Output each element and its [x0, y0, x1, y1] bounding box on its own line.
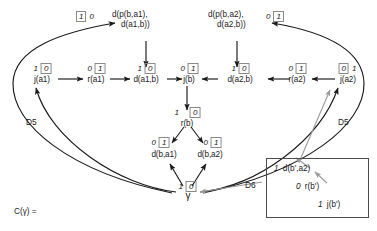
node-r-a1: r(a1) — [88, 75, 105, 84]
edge-loop-right-top — [272, 23, 364, 83]
inset-label: d(b',a2) — [283, 164, 311, 173]
bit-plain: 0 — [180, 65, 186, 73]
bit-boxed: 0 — [239, 63, 249, 74]
cost-formula-line1: C(γ) = — [14, 207, 109, 218]
bits-d-b-a2: 0 1 — [203, 137, 222, 148]
node-d-a2-b: d(a2,b) — [227, 75, 252, 84]
inset-row-j-bp: 1 j(b') — [318, 200, 340, 209]
bits-d-p-b-a1: 1 0 — [76, 11, 95, 22]
node-d-b-a1: d(b,a1) — [151, 150, 176, 159]
edge-loop-left-top — [13, 23, 115, 83]
inset-flag: 1 — [274, 164, 279, 173]
bit-boxed: 0 — [190, 107, 200, 118]
inset-flag: 0 — [296, 182, 301, 191]
node-r-a2: r(a2) — [289, 75, 306, 84]
node-d-a1-b: d(a1,b) — [133, 75, 158, 84]
node-d-p-b-a2-line1: d(p(b,a2), — [208, 10, 246, 20]
edge-label-d5-left: D5 — [26, 117, 37, 127]
bit-boxed: 1 — [76, 11, 86, 22]
bit-plain: 1 — [174, 109, 180, 117]
node-j-a2: j(a2) — [340, 75, 356, 84]
edge-rb-dba2 — [191, 127, 203, 143]
inset-flag: 1 — [318, 200, 323, 209]
inset-row-r-bp: 0 r(b') — [296, 182, 319, 191]
inset-label: r(b') — [305, 182, 319, 191]
node-j-a1: j(a1) — [34, 75, 50, 84]
inset-label: j(b') — [327, 200, 340, 209]
bit-boxed: 0 — [41, 63, 51, 74]
bit-boxed: 0 — [339, 63, 349, 74]
diagram-canvas: 1 0 d(p(b,a1), d(a1,b)) d(p(b,a2), d(a2,… — [0, 0, 377, 231]
bits-d-a2-b: 1 0 — [231, 63, 250, 74]
node-gamma: γ — [186, 190, 191, 201]
bit-plain: 1 — [33, 65, 39, 73]
edge-label-d5-right: D5 — [338, 117, 349, 127]
bit-boxed: 1 — [273, 11, 283, 22]
edge-label-d6: D6 — [245, 180, 256, 190]
node-d-p-b-a1-line2: d(a1,b)) — [112, 20, 150, 30]
edge-d6-to-ja2 — [300, 90, 330, 160]
node-d-p-b-a2: d(p(b,a2), d(a2,b)) — [208, 10, 246, 29]
bits-j-b: 0 1 — [180, 63, 199, 74]
bits-d-a1-b: 1 0 — [137, 63, 156, 74]
bit-boxed: 1 — [296, 63, 306, 74]
bits-d-p-b-a2: 0 1 — [265, 11, 284, 22]
edge-rb-dba1 — [172, 127, 184, 143]
bit-plain: 0 — [87, 65, 93, 73]
bits-r-b: 1 0 — [174, 107, 201, 118]
bit-plain: 0 — [151, 139, 157, 147]
bit-boxed: 1 — [159, 137, 169, 148]
bit-plain: 0 — [265, 13, 271, 21]
bits-j-a1: 1 0 — [33, 63, 52, 74]
bits-r-a1: 0 1 — [87, 63, 106, 74]
bit-plain: 1 — [178, 183, 184, 191]
bits-j-a2: 0 1 — [339, 63, 358, 74]
bit-boxed: 1 — [95, 63, 105, 74]
node-d-p-b-a1: d(p(b,a1), d(a1,b)) — [112, 10, 150, 29]
bits-r-a2: 0 1 — [288, 63, 307, 74]
cost-formula: C(γ) = { d( p({a1,a2},b),d(b,a1) ), d( p… — [14, 186, 109, 231]
bit-boxed: 1 — [211, 137, 221, 148]
node-d-b-a2: d(b,a2) — [197, 150, 222, 159]
node-d-p-b-a2-line2: d(a2,b)) — [208, 20, 246, 30]
node-r-b: r(b) — [181, 119, 193, 128]
bit-boxed: 1 — [188, 63, 198, 74]
bits-d-b-a1: 0 1 — [151, 137, 170, 148]
bit-plain: 1 — [231, 65, 237, 73]
node-d-p-b-a1-line1: d(p(b,a1), — [112, 10, 150, 20]
bit-plain: 0 — [88, 13, 94, 21]
bit-plain: 1 — [351, 65, 357, 73]
bit-plain: 0 — [288, 65, 294, 73]
bit-plain: 0 — [203, 139, 209, 147]
edge-d5-left-curve — [13, 83, 172, 193]
bit-boxed: 0 — [145, 63, 155, 74]
inset-row-d-bp-a2: 1 d(b',a2) — [274, 164, 310, 173]
bit-plain: 1 — [137, 65, 143, 73]
node-j-b: j(b) — [183, 75, 194, 84]
